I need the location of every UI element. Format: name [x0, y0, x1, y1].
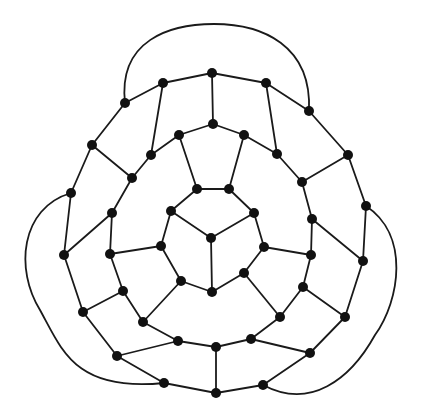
vertex-A7 [176, 276, 186, 286]
edge-L6-A8 [110, 246, 161, 254]
vertex-R5 [306, 250, 316, 260]
vertex-M2 [174, 130, 184, 140]
edge-L8-L7 [83, 291, 123, 312]
edge-B6-B8 [117, 356, 164, 383]
edge-L5-L4 [64, 213, 112, 255]
edge-L8-B6 [83, 312, 117, 356]
vertex-L3 [66, 188, 76, 198]
edge-M2-M1 [151, 135, 179, 155]
edge-A5-A6 [212, 273, 244, 292]
vertex-C0 [206, 233, 216, 243]
edge-T4-M5 [266, 83, 277, 154]
edge-L3-L5 [64, 193, 71, 255]
vertex-B8 [159, 378, 169, 388]
edge-A7-A8 [161, 246, 181, 281]
edge-T1-L1 [92, 103, 125, 145]
vertex-A1 [192, 184, 202, 194]
edge-T4-T5 [266, 83, 309, 111]
edge-A8-A9 [161, 211, 171, 246]
edge-B2-A5 [244, 273, 280, 317]
edge-L7-B1 [123, 291, 143, 322]
edge-A2-A3 [229, 189, 254, 213]
edge-B4-B5 [216, 339, 251, 347]
edge-L1-L3 [71, 145, 92, 193]
edge-M4-M5 [244, 135, 277, 154]
planar-graph-diagram [0, 0, 430, 419]
edge-B5-B7 [251, 339, 310, 353]
edge-M5-R2 [277, 154, 302, 182]
edge-B2-R7 [280, 287, 303, 317]
vertex-M3 [208, 119, 218, 129]
vertex-A3 [249, 208, 259, 218]
edge-B8-B9 [164, 383, 216, 393]
vertex-L8 [78, 307, 88, 317]
vertex-B1 [138, 317, 148, 327]
edge-R1-R2 [302, 155, 348, 182]
edge-R4-R5 [311, 219, 312, 255]
vertex-M5 [272, 149, 282, 159]
edge-B1-B3 [143, 322, 178, 341]
vertex-B10 [258, 380, 268, 390]
vertex-T1 [120, 98, 130, 108]
edge-R3-R6 [363, 206, 366, 261]
edge-C0-A6 [211, 238, 212, 292]
vertex-A5 [239, 268, 249, 278]
edge-M3-M2 [179, 124, 213, 135]
edge-R7-R8 [303, 287, 345, 317]
vertex-R1 [343, 150, 353, 160]
vertex-R7 [298, 282, 308, 292]
edge-L6-L7 [110, 254, 123, 291]
vertex-A2 [224, 184, 234, 194]
edge-L4-L6 [110, 213, 112, 254]
vertex-L6 [105, 249, 115, 259]
edge-R2-R4 [302, 182, 312, 219]
edge-R4-R6 [312, 219, 363, 261]
vertex-T4 [261, 78, 271, 88]
vertex-T2 [158, 78, 168, 88]
vertex-A9 [166, 206, 176, 216]
vertex-T5 [304, 106, 314, 116]
vertex-R8 [340, 312, 350, 322]
edge-B3-B4 [178, 341, 216, 347]
vertex-L4 [107, 208, 117, 218]
vertex-B7 [305, 348, 315, 358]
edge-B10-B7 [263, 353, 310, 385]
edge-T1-T2 [125, 83, 163, 103]
edge-R6-R8 [345, 261, 363, 317]
vertex-L7 [118, 286, 128, 296]
edge-T2-T3 [163, 73, 212, 83]
edge-L2-L4 [112, 178, 132, 213]
edge-C0-A9 [171, 211, 211, 238]
edge-C0-A3 [211, 213, 254, 238]
vertex-R3 [361, 201, 371, 211]
edge-A3-A4 [254, 213, 264, 247]
edge-M2-A1 [179, 135, 197, 189]
vertex-B2 [275, 312, 285, 322]
edge-B9-B10 [216, 385, 263, 393]
edge-M4-A2 [229, 135, 244, 189]
vertex-R2 [297, 177, 307, 187]
vertex-B9 [211, 388, 221, 398]
vertex-M1 [146, 150, 156, 160]
vertex-M4 [239, 130, 249, 140]
vertex-L5 [59, 250, 69, 260]
outer-arcs [25, 24, 396, 394]
top-arc [124, 24, 309, 111]
left-arc [25, 193, 164, 384]
edge-T5-R1 [309, 111, 348, 155]
edge-T2-M1 [151, 83, 163, 155]
vertex-B5 [246, 334, 256, 344]
edge-T3-M3 [212, 73, 213, 124]
vertex-L2 [127, 173, 137, 183]
vertex-B6 [112, 351, 122, 361]
vertex-R6 [358, 256, 368, 266]
edge-R8-B7 [310, 317, 345, 353]
vertex-B3 [173, 336, 183, 346]
vertex-A8 [156, 241, 166, 251]
vertex-T3 [207, 68, 217, 78]
vertex-B4 [211, 342, 221, 352]
vertex-L1 [87, 140, 97, 150]
vertex-A4 [259, 242, 269, 252]
edge-A9-A1 [171, 189, 197, 211]
edge-L5-L8 [64, 255, 83, 312]
